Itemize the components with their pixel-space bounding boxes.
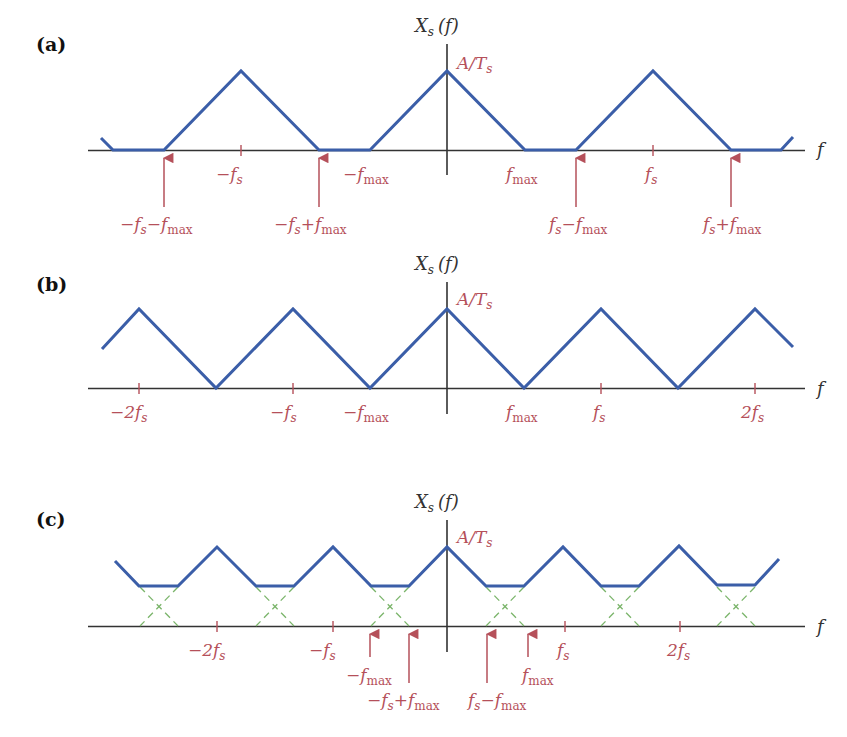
arrow-label-neg-fs-plus-fmax: −fs+fmax [274,214,347,237]
sampling-spectra-figure: (a) Xs(f) A/Ts f −fs −fmax fmax fs −fs−f… [0,0,847,737]
arrow-label-fs-minus-fmax: fs−fmax [547,214,608,237]
panel-a: (a) Xs(f) A/Ts f −fs −fmax fmax fs −fs−f… [36,15,827,237]
tick-label-2fs: 2fs [740,402,764,425]
tick-label-fs: fs [591,402,605,425]
panel-c: (c) Xs(f) A/Ts f −2fs −fs fs 2fs [36,491,827,713]
x-axis-label: f [815,378,827,399]
x-axis-label: f [815,616,827,637]
y-axis-label: Xs(f) [413,253,459,277]
tick-label-neg-fmax: −fmax [343,164,389,187]
peak-label: A/Ts [455,289,493,312]
y-axis-label: Xs(f) [413,15,459,39]
tick-label-2fs: 2fs [666,640,690,663]
arrow-label-neg-fs-minus-fmax: −fs−fmax [120,214,193,237]
tick-label-neg-fmax: −fmax [343,402,389,425]
tick-label-neg-2fs: −2fs [188,640,226,663]
y-axis-label: Xs(f) [413,491,459,515]
tick-label-fs: fs [555,640,569,663]
arrow-label-fs-plus-fmax: fs+fmax [701,214,762,237]
arrow-label-fmax: fmax [520,665,554,688]
panel-c-label: (c) [36,508,66,530]
tick-label-fmax: fmax [504,402,538,425]
panel-b-label: (b) [36,273,67,295]
tick-label-fmax: fmax [504,164,538,187]
tick-label-neg-fs: −fs [309,640,336,663]
tick-label-neg-2fs: −2fs [110,402,148,425]
arrow-label-neg-fs-plus-fmax: −fs+fmax [367,690,440,713]
arrow-label-fs-minus-fmax: fs−fmax [466,690,527,713]
tick-label-neg-fs: −fs [216,164,243,187]
x-axis-label: f [815,139,827,160]
arrow-label-neg-fmax: −fmax [346,665,392,688]
panel-a-label: (a) [36,33,66,55]
peak-label: A/Ts [455,53,493,76]
peak-label: A/Ts [455,527,493,550]
tick-label-fs: fs [643,164,657,187]
panel-b: (b) Xs(f) A/Ts f −2fs −fs −fmax fmax fs … [36,253,827,425]
tick-label-neg-fs: −fs [270,402,297,425]
